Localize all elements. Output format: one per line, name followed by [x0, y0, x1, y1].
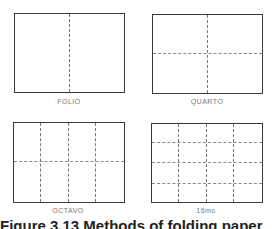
sixteenmo-sheet	[151, 123, 263, 203]
fold-line	[233, 124, 234, 202]
fold-line	[14, 161, 124, 162]
fold-line	[152, 183, 262, 184]
folio-label: FOLIO	[14, 98, 124, 105]
fold-line	[68, 123, 69, 202]
fold-line	[178, 124, 179, 202]
fold-line	[153, 53, 262, 54]
fold-line	[152, 162, 262, 163]
quarto-sheet	[152, 14, 263, 94]
figure-caption: Figure 3.13 Methods of folding paper	[0, 217, 263, 229]
fold-line	[95, 123, 96, 202]
fold-line	[152, 142, 262, 143]
octavo-label: OCTAVO	[13, 207, 123, 214]
sixteenmo-label: 16mo	[151, 207, 261, 214]
folio-sheet	[14, 13, 125, 93]
fold-line	[69, 14, 70, 92]
fold-line	[207, 15, 208, 93]
fold-line	[206, 124, 207, 202]
fold-line	[40, 123, 41, 202]
octavo-sheet	[13, 122, 125, 203]
quarto-label: QUARTO	[152, 98, 262, 105]
